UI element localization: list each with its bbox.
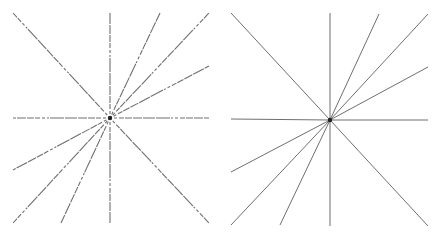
ray-line [13,13,110,118]
ray-line [13,118,110,223]
ray-line [330,14,379,120]
ray-line [231,13,330,120]
dashed-starburst-diagram [0,0,220,235]
ray-line [330,14,428,120]
ray-line [231,120,330,225]
ray-line [110,66,209,118]
center-point [328,118,332,122]
ray-line [110,118,209,223]
ray-line [231,120,330,172]
ray-line [110,13,209,118]
solid-starburst-panel [219,0,439,235]
ray-line [110,13,160,118]
ray-line [61,118,110,223]
ray-line [280,120,330,225]
ray-line [330,120,428,226]
dashed-starburst-panel [0,0,220,235]
ray-line [330,67,428,120]
center-point [108,116,112,120]
ray-line [13,118,110,170]
solid-starburst-diagram [219,0,439,235]
ray-line [231,119,330,120]
